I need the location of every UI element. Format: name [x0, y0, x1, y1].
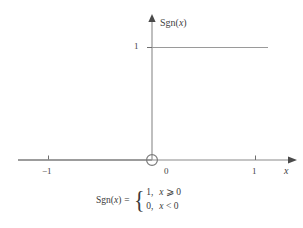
formula-case-bottom-value: 0,: [146, 201, 153, 211]
y-axis-label: Sgn(x): [160, 18, 187, 28]
formula-case-top-value: 1,: [146, 187, 153, 197]
formula-fn-prefix: Sgn(: [96, 195, 114, 205]
y-axis-arrowhead: [148, 14, 155, 22]
formula-case-top: 1,x ⩾ 0: [146, 186, 181, 200]
y-axis-label-suffix: ): [183, 17, 186, 28]
y-axis-label-prefix: Sgn(: [160, 17, 179, 28]
y-tick-label-1: 1: [134, 42, 139, 51]
formula-fn-suffix: ): [118, 195, 121, 205]
formula-function-name: Sgn(x): [96, 195, 121, 205]
formula-case-top-condition: x ⩾ 0: [159, 187, 181, 197]
formula-case-bottom-variable: x: [159, 201, 163, 211]
formula-case-bottom-condition: x < 0: [159, 201, 178, 211]
x-tick-label-0: 0: [164, 167, 169, 176]
x-tick-label-neg1: −1: [42, 167, 52, 176]
formula-left-brace: {: [134, 190, 145, 210]
formula-equals-sign: =: [124, 195, 129, 205]
piecewise-formula: Sgn(x) = { 1,x ⩾ 0 0,x < 0: [96, 186, 181, 214]
formula-case-bottom-relation: < 0: [166, 201, 178, 211]
formula-case-top-relation: ⩾ 0: [166, 187, 181, 197]
formula-cases: 1,x ⩾ 0 0,x < 0: [146, 186, 181, 214]
formula-case-bottom: 0,x < 0: [146, 200, 181, 214]
x-axis-label: x: [284, 166, 288, 176]
sgn-function-figure: Sgn(x) 1 −1 0 1 x Sgn(x) = { 1,x ⩾ 0 0,x…: [0, 0, 303, 228]
x-tick-label-1: 1: [252, 167, 257, 176]
x-axis-arrowhead: [288, 156, 297, 163]
formula-case-top-variable: x: [159, 187, 163, 197]
